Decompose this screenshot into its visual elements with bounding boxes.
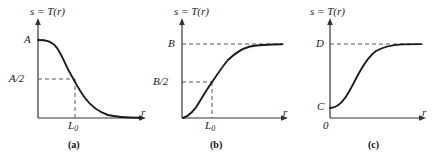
half-value-label-b: B/2 <box>153 76 168 87</box>
top-value-label-b: B <box>168 38 175 49</box>
bottom-value-label-c: C <box>317 101 324 112</box>
tick-label-a: L0 <box>68 120 78 133</box>
tick-label-a-sub: 0 <box>74 124 78 133</box>
curve-c <box>330 44 421 108</box>
panel-c: s = T(r) D C 0 r (c) <box>292 0 446 162</box>
axis-title-c: s = T(r) <box>310 6 345 17</box>
caption-c: (c) <box>368 139 379 150</box>
y-axis-arrow-b <box>179 18 185 25</box>
curve-b <box>183 44 282 118</box>
x-axis-label-c: r <box>422 107 426 118</box>
half-value-label-a: A/2 <box>9 73 24 84</box>
caption-b: (b) <box>210 139 222 150</box>
caption-a: (a) <box>68 139 80 150</box>
figure-sigmoid-transfer-functions: s = T(r) A A/2 L0 r (a) s = T(r) B B/2 L… <box>0 0 446 162</box>
top-value-label-c: D <box>316 38 324 49</box>
x-axis-label-b: r <box>283 107 287 118</box>
panel-a: s = T(r) A A/2 L0 r (a) <box>0 0 150 162</box>
axis-title-b: s = T(r) <box>174 6 209 17</box>
tick-label-b: L0 <box>205 120 215 133</box>
top-value-label-a: A <box>24 34 31 45</box>
tick-label-b-sub: 0 <box>211 124 215 133</box>
panel-b: s = T(r) B B/2 L0 r (b) <box>145 0 295 162</box>
origin-label-c: 0 <box>323 120 329 131</box>
y-axis-arrow-c <box>327 18 333 25</box>
axis-title-a: s = T(r) <box>30 6 65 17</box>
y-axis-arrow-a <box>35 18 41 25</box>
panel-c-plot <box>292 0 446 162</box>
